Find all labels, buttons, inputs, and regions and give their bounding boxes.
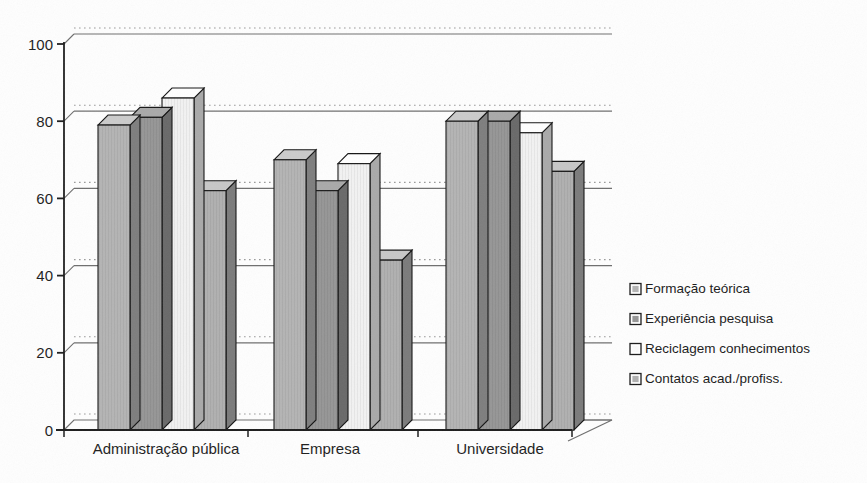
bar-chart: 020406080100 Administração públicaEmpres… (0, 0, 867, 483)
paper-grain-overlay (0, 0, 867, 483)
chart-container: 020406080100 Administração públicaEmpres… (0, 0, 867, 483)
